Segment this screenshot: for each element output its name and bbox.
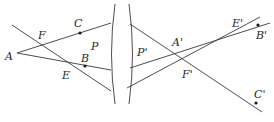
- point-C: [78, 31, 81, 34]
- label-C: C: [74, 17, 83, 30]
- point-C-prime: [254, 101, 257, 104]
- lens-left-surface: [112, 4, 116, 104]
- label-P-prime: P': [136, 46, 147, 59]
- label-B: B: [80, 52, 89, 65]
- ray-A-prime-B-prime: [130, 23, 270, 68]
- label-F-prime: F': [181, 68, 193, 81]
- point-B-prime: [256, 23, 259, 26]
- ray-A-B: [17, 53, 111, 70]
- convex-lens: [112, 4, 133, 104]
- lens-right-surface: [129, 4, 133, 104]
- label-A: A: [4, 50, 13, 63]
- label-F: F: [37, 29, 46, 42]
- ray-A-prime-C-prime: [130, 24, 262, 112]
- label-A-prime: A': [171, 36, 183, 49]
- label-E-prime: E': [231, 17, 243, 30]
- label-B-prime: B': [255, 29, 267, 42]
- label-C-prime: C': [254, 88, 265, 101]
- label-E: E: [61, 69, 70, 82]
- lens-diagram: A F C P B E P' A' F' E' B' C': [0, 0, 274, 122]
- label-P: P: [90, 40, 99, 53]
